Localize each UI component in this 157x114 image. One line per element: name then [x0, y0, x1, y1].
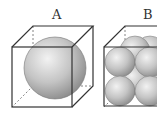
panel-a: A — [12, 7, 93, 107]
large-sphere — [24, 37, 86, 99]
panel-label-a: A — [51, 7, 62, 22]
panel-label-b: B — [143, 7, 153, 22]
sphere-front-bottom-left — [105, 76, 135, 106]
panel-b: B — [104, 7, 157, 107]
sphere-front-top-left — [105, 47, 135, 77]
sphere-packing-diagram: A B — [0, 0, 157, 114]
